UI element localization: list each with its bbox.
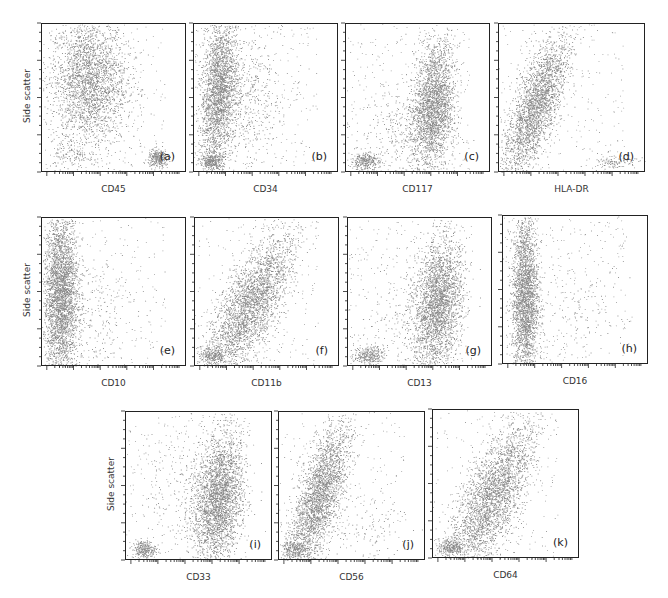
x-axis-label-i: CD33	[125, 572, 272, 582]
axis-ticks	[274, 411, 429, 566]
x-axis-label-c: CD117	[345, 184, 490, 194]
x-axis-label-d: HLA-DR	[498, 184, 645, 194]
x-axis-label-b: CD34	[193, 184, 338, 194]
axis-ticks	[121, 411, 276, 566]
axis-ticks	[494, 23, 649, 178]
axis-ticks	[343, 217, 496, 372]
y-axis-label: Side scatter	[106, 444, 116, 524]
axis-ticks	[190, 217, 343, 372]
axis-ticks	[428, 409, 583, 564]
axis-ticks	[189, 23, 342, 178]
x-axis-label-a: CD45	[41, 184, 186, 194]
axis-ticks	[37, 217, 190, 372]
axis-ticks	[37, 23, 190, 178]
axis-ticks	[498, 215, 652, 370]
y-axis-label: Side scatter	[22, 56, 32, 136]
x-axis-label-h: CD16	[502, 376, 648, 386]
x-axis-label-f: CD11b	[194, 378, 339, 388]
x-axis-label-j: CD56	[278, 572, 425, 582]
axis-ticks	[341, 23, 494, 178]
x-axis-label-k: CD64	[432, 570, 579, 580]
y-axis-label: Side scatter	[22, 250, 32, 330]
x-axis-label-e: CD10	[41, 378, 186, 388]
x-axis-label-g: CD13	[347, 378, 492, 388]
